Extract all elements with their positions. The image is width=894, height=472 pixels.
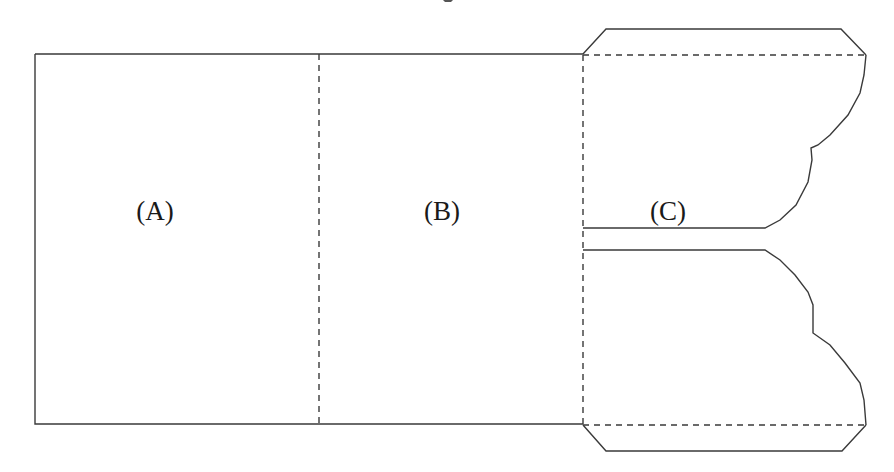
folder-template-diagram: (A) (B) (C) — [0, 0, 894, 472]
cropped-title-fragment — [443, 0, 453, 2]
upper-pocket-outline — [583, 55, 866, 228]
panel-b-label: (B) — [424, 198, 460, 225]
panel-c-label: (C) — [650, 198, 686, 225]
top-tab-outline — [583, 29, 866, 55]
bottom-tab-outline — [583, 425, 866, 451]
diagram-canvas — [0, 0, 894, 472]
panel-ab-outline — [35, 54, 583, 424]
panel-a-label: (A) — [136, 198, 173, 225]
lower-pocket-outline — [583, 250, 866, 425]
